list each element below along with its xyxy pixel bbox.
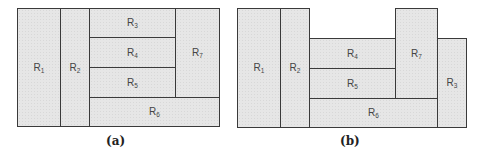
region-r2: R2	[280, 8, 310, 128]
region-r5: R5	[89, 67, 176, 98]
region-label: R2	[290, 62, 301, 74]
region-label: R3	[127, 17, 138, 29]
region-label: R1	[34, 62, 45, 74]
region-label: R7	[411, 48, 422, 60]
region-label: R4	[127, 47, 138, 59]
region-label: R1	[254, 62, 265, 74]
region-r3: R3	[437, 38, 467, 128]
region-r4: R4	[89, 37, 176, 68]
region-r6: R6	[309, 98, 438, 128]
region-r3: R3	[89, 8, 176, 38]
region-r2: R2	[60, 8, 90, 127]
region-r5: R5	[309, 68, 396, 99]
region-r7: R7	[175, 8, 220, 98]
caption-b: (b)	[340, 134, 360, 148]
region-r1: R1	[17, 8, 61, 127]
region-label: R5	[127, 77, 138, 89]
region-label: R7	[192, 47, 203, 59]
caption-a: (a)	[106, 134, 125, 148]
region-r1: R1	[237, 8, 281, 128]
region-label: R6	[149, 106, 160, 118]
region-label: R2	[70, 62, 81, 74]
region-label: R3	[447, 77, 458, 89]
region-label: R6	[368, 107, 379, 119]
region-r7: R7	[395, 8, 438, 99]
region-label: R4	[347, 48, 358, 60]
region-r4: R4	[309, 38, 396, 69]
region-r6: R6	[89, 97, 220, 127]
region-label: R5	[347, 78, 358, 90]
